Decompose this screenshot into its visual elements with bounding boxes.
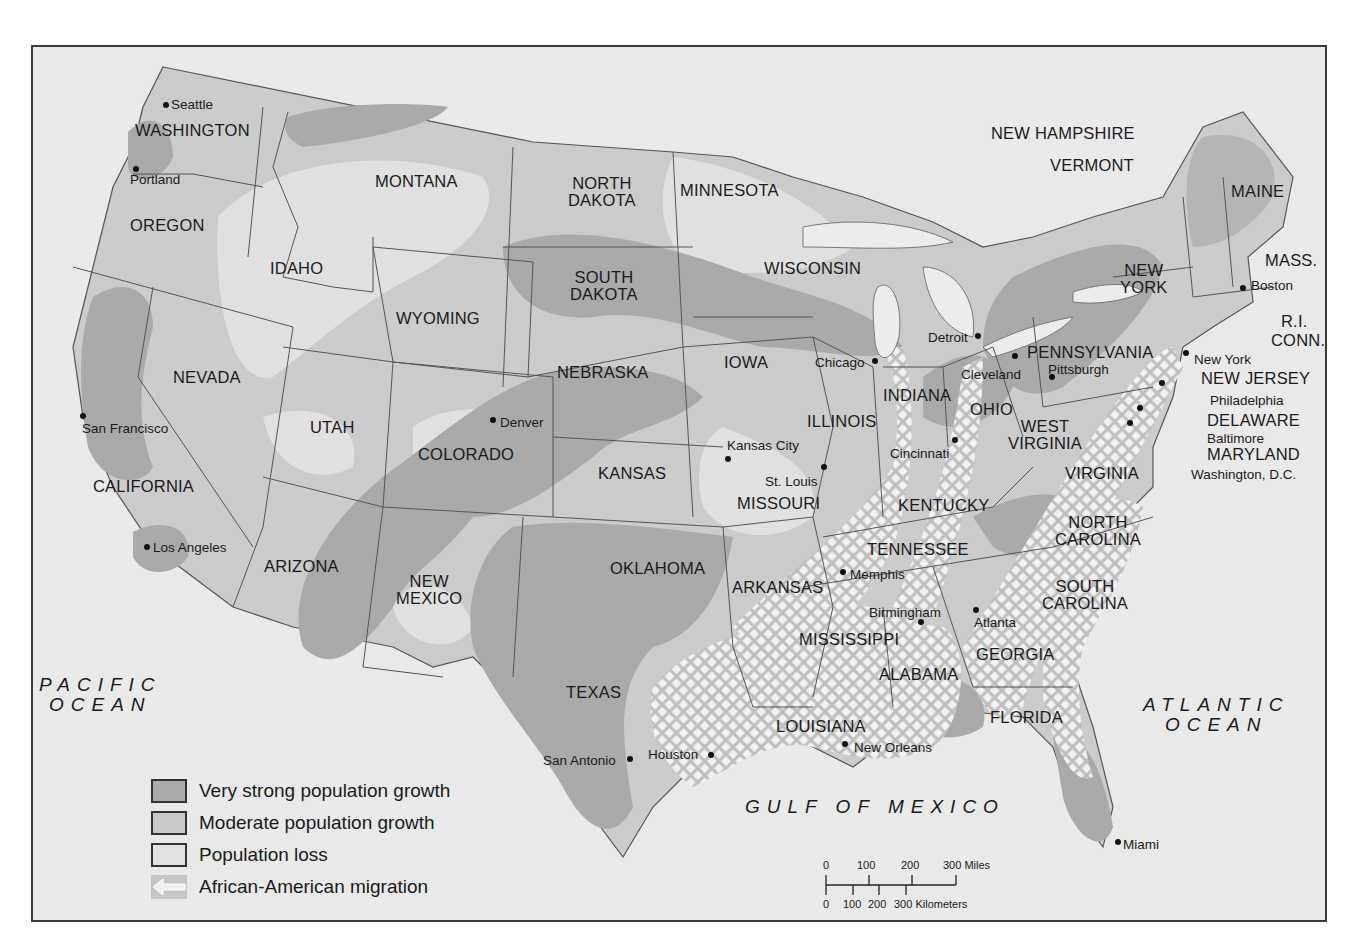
city-label-cleveland: Cleveland <box>961 368 1021 382</box>
atlantic-ocean-label: ATLANTICOCEAN <box>1143 695 1289 735</box>
state-label-utah: UTAH <box>310 419 355 436</box>
city-dot-icon <box>1127 420 1133 426</box>
city-label-washington-dc: Washington, D.C. <box>1191 468 1296 482</box>
state-label-idaho: IDAHO <box>270 260 323 277</box>
city-label-seattle: Seattle <box>171 98 213 112</box>
state-label-arizona: ARIZONA <box>264 558 339 575</box>
city-dot-icon <box>1159 380 1165 386</box>
state-label-new-jersey: NEW JERSEY <box>1201 370 1310 387</box>
city-dot-icon <box>163 102 169 108</box>
state-label-virginia: VIRGINIA <box>1065 465 1139 482</box>
state-label-mississippi: MISSISSIPPI <box>799 631 899 648</box>
city-label-denver: Denver <box>500 416 544 430</box>
city-label-new-york-city: New York <box>1194 353 1251 367</box>
city-label-portland: Portland <box>130 173 180 187</box>
state-label-tennessee: TENNESSEE <box>867 541 969 558</box>
city-dot-icon <box>490 417 496 423</box>
scale-miles-100: 100 <box>857 859 875 871</box>
state-label-west-virginia: WESTVIRGINIA <box>1008 418 1082 453</box>
city-label-kansas-city: Kansas City <box>727 439 799 453</box>
city-label-philadelphia: Philadelphia <box>1210 394 1284 408</box>
state-label-nebraska: NEBRASKA <box>557 364 648 381</box>
state-label-georgia: GEORGIA <box>976 646 1054 663</box>
state-label-ohio: OHIO <box>970 401 1013 418</box>
state-label-iowa: IOWA <box>724 354 768 371</box>
city-label-chicago: Chicago <box>815 356 865 370</box>
moderate-swatch <box>151 811 187 835</box>
state-label-mass: MASS. <box>1265 252 1317 269</box>
state-label-minnesota: MINNESOTA <box>680 182 779 199</box>
city-label-birmingham: Birmingham <box>869 606 941 620</box>
legend: Very strong population growth Moderate p… <box>151 775 450 903</box>
scale-km-100: 100 <box>843 898 861 910</box>
loss-swatch <box>151 843 187 867</box>
legend-item-loss: Population loss <box>151 839 450 871</box>
city-dot-icon <box>975 333 981 339</box>
state-label-new-mexico: NEWMEXICO <box>396 573 462 608</box>
state-label-north-carolina: NORTHCAROLINA <box>1055 514 1141 549</box>
city-dot-icon <box>708 752 714 758</box>
state-label-louisiana: LOUISIANA <box>776 718 866 735</box>
city-label-st-louis: St. Louis <box>765 475 818 489</box>
city-dot-icon <box>1183 350 1189 356</box>
gulf-of-mexico-label: GULF OF MEXICO <box>745 797 1005 817</box>
city-dot-icon <box>840 569 846 575</box>
state-label-alabama: ALABAMA <box>879 666 958 683</box>
scale-ruler <box>823 873 983 899</box>
scale-miles-0: 0 <box>823 859 829 871</box>
city-dot-icon <box>1012 353 1018 359</box>
city-dot-icon <box>872 358 878 364</box>
state-label-kentucky: KENTUCKY <box>898 497 989 514</box>
state-label-missouri: MISSOURI <box>737 495 820 512</box>
city-label-los-angeles: Los Angeles <box>153 541 227 555</box>
city-dot-icon <box>952 437 958 443</box>
state-label-illinois: ILLINOIS <box>807 413 876 430</box>
legend-item-moderate: Moderate population growth <box>151 807 450 839</box>
state-label-conn: CONN. <box>1271 332 1325 349</box>
state-label-florida: FLORIDA <box>990 709 1063 726</box>
state-label-ri: R.I. <box>1281 313 1307 330</box>
pacific-ocean-label: PACIFICOCEAN <box>39 675 162 715</box>
city-dot-icon <box>1137 405 1143 411</box>
scale-miles-300: 300 Miles <box>943 859 990 871</box>
city-label-atlanta: Atlanta <box>974 616 1016 630</box>
state-label-washington: WASHINGTON <box>135 122 250 139</box>
city-label-pittsburgh: Pittsburgh <box>1048 363 1109 377</box>
state-label-arkansas: ARKANSAS <box>732 579 823 596</box>
state-label-delaware: DELAWARE <box>1207 412 1300 429</box>
state-label-maine: MAINE <box>1231 183 1284 200</box>
scale-km-0: 0 <box>823 898 829 910</box>
city-dot-icon <box>973 607 979 613</box>
scale-miles-200: 200 <box>901 859 919 871</box>
state-label-indiana: INDIANA <box>883 387 951 404</box>
legend-label: Population loss <box>199 844 328 866</box>
scale-km-300: 300 Kilometers <box>894 898 967 910</box>
city-dot-icon <box>80 413 86 419</box>
state-label-texas: TEXAS <box>566 684 621 701</box>
city-label-memphis: Memphis <box>850 568 905 582</box>
very-strong-swatch <box>151 779 187 803</box>
state-label-kansas: KANSAS <box>598 465 666 482</box>
scale-bar: 0 100 200 300 Miles 0 100 200 300 Kilome… <box>823 855 1003 915</box>
city-label-san-francisco: San Francisco <box>82 422 168 436</box>
city-dot-icon <box>1115 839 1121 845</box>
state-label-new-york: NEWYORK <box>1120 262 1168 297</box>
state-label-oklahoma: OKLAHOMA <box>610 560 705 577</box>
state-label-vermont: VERMONT <box>1050 157 1134 174</box>
state-label-north-dakota: NORTHDAKOTA <box>568 175 636 210</box>
state-label-maryland: MARYLAND <box>1207 446 1300 463</box>
state-label-wyoming: WYOMING <box>396 310 480 327</box>
migration-arrow-icon <box>151 875 187 899</box>
state-label-south-dakota: SOUTHDAKOTA <box>570 269 638 304</box>
state-label-oregon: OREGON <box>130 217 205 234</box>
city-label-miami: Miami <box>1123 838 1159 852</box>
state-label-new-hampshire: NEW HAMPSHIRE <box>991 125 1135 142</box>
city-dot-icon <box>842 741 848 747</box>
city-label-san-antonio: San Antonio <box>543 754 616 768</box>
legend-label: African-American migration <box>199 876 428 898</box>
city-dot-icon <box>1240 285 1246 291</box>
city-label-boston: Boston <box>1251 279 1293 293</box>
city-dot-icon <box>144 544 150 550</box>
city-label-cincinnati: Cincinnati <box>890 447 949 461</box>
state-label-pennsylvania: PENNSYLVANIA <box>1027 344 1154 361</box>
